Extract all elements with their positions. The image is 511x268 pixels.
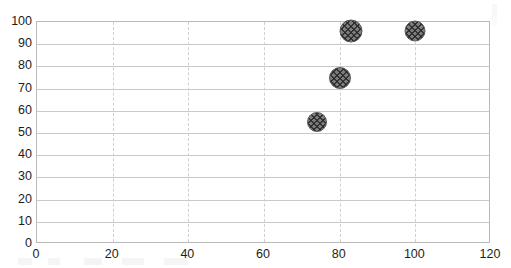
y-tick-label-30: 30 [2,170,32,183]
y-tick-label-80: 80 [2,59,32,72]
y-tick-label-70: 70 [2,81,32,94]
y-tick-label-100: 100 [2,15,32,28]
y-tick-label-0: 0 [2,237,32,250]
gridline-x-60 [264,22,265,242]
x-tick-label-100: 100 [404,248,425,261]
gridline-y-40 [37,155,489,156]
data-point[interactable] [405,20,426,41]
gridline-y-60 [37,111,489,112]
gridline-y-70 [37,89,489,90]
gridline-y-10 [37,222,489,223]
y-tick-label-90: 90 [2,37,32,50]
gridline-x-20 [113,22,114,242]
data-point[interactable] [340,19,363,42]
y-tick-label-40: 40 [2,148,32,161]
x-tick-label-60: 60 [256,248,270,261]
gridline-x-40 [188,22,189,242]
gridline-y-90 [37,44,489,45]
y-tick-label-50: 50 [2,126,32,139]
scatter-chart: 0102030405060708090100 020406080100120 [0,0,511,268]
y-tick-label-60: 60 [2,104,32,117]
gridline-x-100 [415,22,416,242]
x-tick-label-80: 80 [332,248,346,261]
y-tick-label-10: 10 [2,215,32,228]
gridline-y-50 [37,133,489,134]
data-point[interactable] [307,112,327,132]
data-point[interactable] [329,67,351,89]
y-tick-label-20: 20 [2,192,32,205]
x-tick-label-120: 120 [480,248,501,261]
y-axis-tick-labels: 0102030405060708090100 [0,21,32,243]
gridline-y-80 [37,66,489,67]
plot-area [36,21,490,243]
gridline-y-30 [37,177,489,178]
gridline-y-20 [37,200,489,201]
scan-artifact-top-right [492,4,497,26]
gridline-x-80 [340,22,341,242]
scan-artifact-bottom-text [18,258,188,265]
